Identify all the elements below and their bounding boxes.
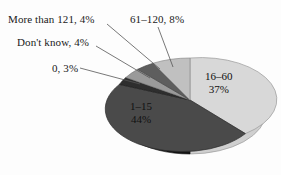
pie-label-61-120: 61–120, 8%	[130, 13, 184, 25]
pie-label-16-60-percent: 37%	[205, 83, 233, 96]
pie-chart: More than 121, 4% Don't know, 4% 0, 3% 6…	[0, 0, 281, 175]
pie-label-1-15: 1–15 44%	[130, 100, 152, 126]
pie-label-zero: 0, 3%	[52, 62, 78, 74]
pie-label-more-than-121: More than 121, 4%	[8, 13, 95, 25]
leader-line-dont-know	[96, 46, 150, 78]
pie-label-dont-know: Don't know, 4%	[17, 36, 89, 48]
pie-label-1-15-name: 1–15	[130, 100, 152, 113]
pie-label-16-60: 16–60 37%	[205, 70, 233, 96]
pie-label-1-15-percent: 44%	[130, 113, 152, 126]
leader-line-more-than-121	[107, 24, 160, 69]
pie-label-16-60-name: 16–60	[205, 70, 233, 83]
pie-chart-graphic	[0, 0, 281, 175]
